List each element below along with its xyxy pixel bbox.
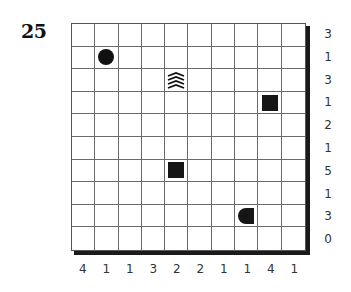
grid-cell-r8-c5[interactable]: [188, 205, 211, 228]
grid-cell-r8-c9[interactable]: [282, 205, 305, 228]
grid-cell-r0-c1[interactable]: [95, 24, 118, 47]
grid-cell-r5-c8[interactable]: [258, 137, 281, 160]
grid-cell-r4-c2[interactable]: [119, 114, 142, 137]
grid-cell-r2-c3[interactable]: [142, 69, 165, 92]
grid-cell-r0-c9[interactable]: [282, 24, 305, 47]
grid-cell-r2-c4[interactable]: [165, 69, 188, 92]
grid-cell-r4-c7[interactable]: [235, 114, 258, 137]
grid-cell-r1-c1[interactable]: [95, 47, 118, 70]
grid-cell-r3-c8[interactable]: [258, 92, 281, 115]
grid-cell-r2-c6[interactable]: [212, 69, 235, 92]
grid-cell-r5-c6[interactable]: [212, 137, 235, 160]
grid-cell-r0-c0[interactable]: [72, 24, 95, 47]
grid-cell-r2-c5[interactable]: [188, 69, 211, 92]
grid-cell-r8-c8[interactable]: [258, 205, 281, 228]
grid-cell-r0-c8[interactable]: [258, 24, 281, 47]
grid-cell-r9-c6[interactable]: [212, 227, 235, 250]
grid-cell-r6-c7[interactable]: [235, 160, 258, 183]
grid-cell-r7-c5[interactable]: [188, 182, 211, 205]
grid-cell-r5-c5[interactable]: [188, 137, 211, 160]
grid-cell-r5-c2[interactable]: [119, 137, 142, 160]
grid-cell-r5-c4[interactable]: [165, 137, 188, 160]
grid-cell-r6-c0[interactable]: [72, 160, 95, 183]
grid-cell-r3-c7[interactable]: [235, 92, 258, 115]
grid-cell-r7-c2[interactable]: [119, 182, 142, 205]
grid-cell-r8-c0[interactable]: [72, 205, 95, 228]
grid-cell-r6-c9[interactable]: [282, 160, 305, 183]
grid-cell-r5-c1[interactable]: [95, 137, 118, 160]
grid-cell-r7-c9[interactable]: [282, 182, 305, 205]
grid-cell-r8-c2[interactable]: [119, 205, 142, 228]
grid-cell-r2-c2[interactable]: [119, 69, 142, 92]
grid-cell-r1-c4[interactable]: [165, 47, 188, 70]
grid-cell-r2-c1[interactable]: [95, 69, 118, 92]
grid-cell-r4-c4[interactable]: [165, 114, 188, 137]
grid-cell-r5-c0[interactable]: [72, 137, 95, 160]
grid-cell-r0-c5[interactable]: [188, 24, 211, 47]
grid-cell-r7-c3[interactable]: [142, 182, 165, 205]
grid-cell-r5-c9[interactable]: [282, 137, 305, 160]
grid-cell-r3-c2[interactable]: [119, 92, 142, 115]
grid-cell-r6-c5[interactable]: [188, 160, 211, 183]
grid-cell-r8-c6[interactable]: [212, 205, 235, 228]
grid-cell-r4-c3[interactable]: [142, 114, 165, 137]
grid-cell-r6-c2[interactable]: [119, 160, 142, 183]
grid-cell-r9-c9[interactable]: [282, 227, 305, 250]
grid-cell-r7-c1[interactable]: [95, 182, 118, 205]
grid-cell-r0-c2[interactable]: [119, 24, 142, 47]
grid-cell-r4-c5[interactable]: [188, 114, 211, 137]
grid-cell-r6-c3[interactable]: [142, 160, 165, 183]
grid-cell-r9-c4[interactable]: [165, 227, 188, 250]
grid-cell-r3-c0[interactable]: [72, 92, 95, 115]
grid-cell-r7-c8[interactable]: [258, 182, 281, 205]
grid-cell-r2-c8[interactable]: [258, 69, 281, 92]
grid-cell-r8-c1[interactable]: [95, 205, 118, 228]
grid-cell-r3-c4[interactable]: [165, 92, 188, 115]
grid-cell-r9-c5[interactable]: [188, 227, 211, 250]
grid-cell-r5-c3[interactable]: [142, 137, 165, 160]
grid-cell-r1-c8[interactable]: [258, 47, 281, 70]
grid-cell-r7-c4[interactable]: [165, 182, 188, 205]
grid-cell-r5-c7[interactable]: [235, 137, 258, 160]
grid-cell-r4-c1[interactable]: [95, 114, 118, 137]
grid-cell-r0-c4[interactable]: [165, 24, 188, 47]
grid-cell-r4-c0[interactable]: [72, 114, 95, 137]
grid-cell-r7-c6[interactable]: [212, 182, 235, 205]
grid-cell-r1-c5[interactable]: [188, 47, 211, 70]
grid-cell-r3-c5[interactable]: [188, 92, 211, 115]
grid-cell-r1-c6[interactable]: [212, 47, 235, 70]
grid-cell-r9-c2[interactable]: [119, 227, 142, 250]
grid-cell-r9-c1[interactable]: [95, 227, 118, 250]
grid-cell-r6-c4[interactable]: [165, 160, 188, 183]
grid-cell-r6-c6[interactable]: [212, 160, 235, 183]
grid-cell-r9-c8[interactable]: [258, 227, 281, 250]
grid-cell-r1-c9[interactable]: [282, 47, 305, 70]
grid-cell-r8-c7[interactable]: [235, 205, 258, 228]
grid-cell-r1-c0[interactable]: [72, 47, 95, 70]
grid-cell-r1-c2[interactable]: [119, 47, 142, 70]
grid-cell-r3-c6[interactable]: [212, 92, 235, 115]
grid-cell-r4-c9[interactable]: [282, 114, 305, 137]
grid-cell-r0-c7[interactable]: [235, 24, 258, 47]
grid-cell-r1-c3[interactable]: [142, 47, 165, 70]
grid-cell-r0-c6[interactable]: [212, 24, 235, 47]
grid-cell-r2-c7[interactable]: [235, 69, 258, 92]
grid-cell-r6-c8[interactable]: [258, 160, 281, 183]
grid-cell-r4-c8[interactable]: [258, 114, 281, 137]
grid-cell-r3-c1[interactable]: [95, 92, 118, 115]
grid-cell-r7-c0[interactable]: [72, 182, 95, 205]
grid-cell-r2-c9[interactable]: [282, 69, 305, 92]
grid-cell-r7-c7[interactable]: [235, 182, 258, 205]
grid-cell-r3-c9[interactable]: [282, 92, 305, 115]
grid-cell-r3-c3[interactable]: [142, 92, 165, 115]
grid-cell-r9-c7[interactable]: [235, 227, 258, 250]
grid-cell-r2-c0[interactable]: [72, 69, 95, 92]
grid-cell-r0-c3[interactable]: [142, 24, 165, 47]
grid-cell-r9-c0[interactable]: [72, 227, 95, 250]
grid-cell-r6-c1[interactable]: [95, 160, 118, 183]
grid-cell-r1-c7[interactable]: [235, 47, 258, 70]
grid-cell-r4-c6[interactable]: [212, 114, 235, 137]
grid-cell-r9-c3[interactable]: [142, 227, 165, 250]
grid-cell-r8-c3[interactable]: [142, 205, 165, 228]
grid-cell-r8-c4[interactable]: [165, 205, 188, 228]
